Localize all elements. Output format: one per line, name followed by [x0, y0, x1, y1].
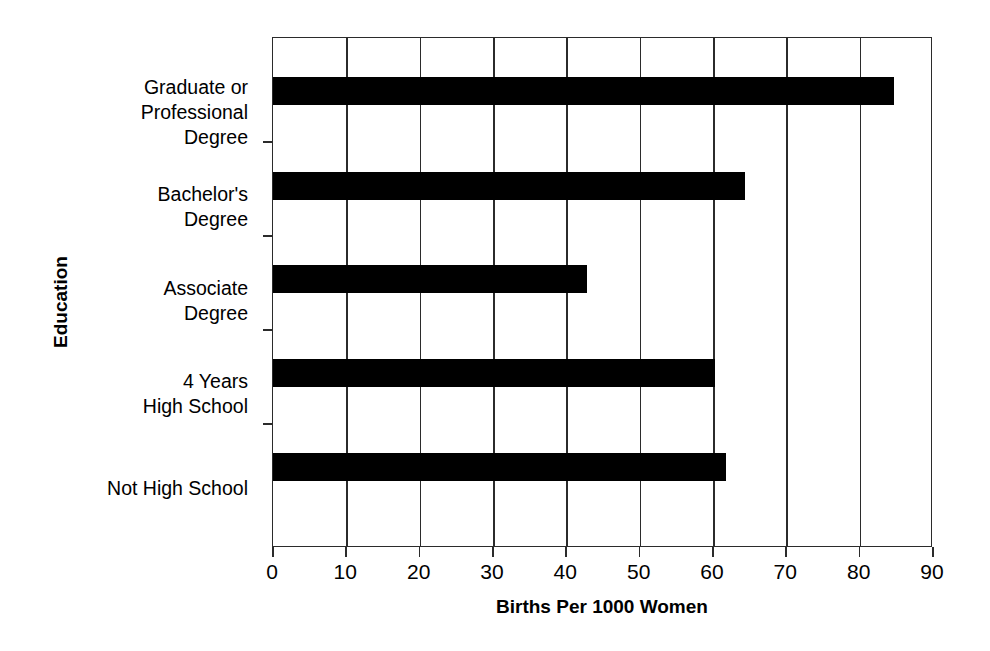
- y-axis-tick-label: 4 Years High School: [58, 369, 248, 419]
- gridline-70: [786, 38, 788, 546]
- x-axis-tick-mark: [419, 547, 421, 557]
- x-axis-tick-label: 80: [829, 560, 889, 584]
- y-axis-tick-label-line: Graduate or: [58, 75, 248, 100]
- bar-chart-figure: Education Graduate or Professional Degre…: [0, 0, 990, 651]
- y-axis-tick-labels: Graduate or Professional Degree Bachelor…: [60, 37, 260, 547]
- y-axis-tick-label-line: Not High School: [58, 476, 248, 501]
- y-axis-tick-label-line: High School: [58, 394, 248, 419]
- x-axis-tick-label: 90: [902, 560, 962, 584]
- y-axis-tick-label: Graduate or Professional Degree: [58, 75, 248, 150]
- x-axis-tick-label: 40: [535, 560, 595, 584]
- gridline-80: [860, 38, 862, 546]
- x-axis-tick-label: 30: [462, 560, 522, 584]
- x-axis-tick-mark: [859, 547, 861, 557]
- x-axis-tick-label: 20: [389, 560, 449, 584]
- bar: [273, 359, 715, 387]
- x-axis-tick-mark: [639, 547, 641, 557]
- y-axis-tick-label-line: 4 Years: [58, 369, 248, 394]
- x-axis-tick-label: 70: [755, 560, 815, 584]
- x-axis-tick-mark: [785, 547, 787, 557]
- x-axis-tick-mark: [272, 547, 274, 557]
- bar: [273, 77, 894, 105]
- x-axis-tick-label: 0: [242, 560, 302, 584]
- x-axis-tick-mark: [932, 547, 934, 557]
- x-axis-tick-mark: [712, 547, 714, 557]
- y-axis-tick-label-line: Degree: [58, 207, 248, 232]
- y-axis-tick-label-line: Associate: [58, 276, 248, 301]
- y-axis-tick-label: Associate Degree: [58, 276, 248, 326]
- x-axis-tick-mark: [565, 547, 567, 557]
- x-axis-tick-label: 10: [315, 560, 375, 584]
- y-axis-tick-label-line: Degree: [58, 125, 248, 150]
- x-axis-tick-label: 50: [609, 560, 669, 584]
- x-axis-title: Births Per 1000 Women: [272, 596, 932, 618]
- bar: [273, 453, 726, 481]
- x-axis-tick-mark: [492, 547, 494, 557]
- plot-area: [272, 37, 932, 547]
- x-axis-tick-mark: [345, 547, 347, 557]
- y-axis-tick-label: Not High School: [58, 476, 248, 501]
- bar: [273, 265, 587, 293]
- y-axis-tick-label: Bachelor's Degree: [58, 182, 248, 232]
- x-axis-tick-label: 60: [682, 560, 742, 584]
- y-axis-tick-label-line: Bachelor's: [58, 182, 248, 207]
- y-axis-tick-label-line: Professional: [58, 100, 248, 125]
- bar: [273, 172, 745, 200]
- y-axis-tick-label-line: Degree: [58, 301, 248, 326]
